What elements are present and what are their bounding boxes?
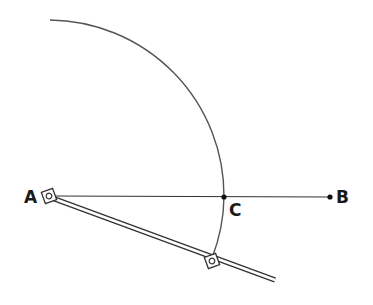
segment-ab — [52, 196, 330, 197]
compass-rod — [52, 198, 275, 280]
label-a: A — [24, 187, 38, 207]
geometry-diagram: A B C — [0, 0, 373, 305]
point-c — [221, 194, 226, 199]
label-c: C — [229, 200, 241, 220]
point-b — [327, 194, 332, 199]
label-b: B — [336, 187, 349, 207]
circle-arc — [50, 20, 224, 258]
